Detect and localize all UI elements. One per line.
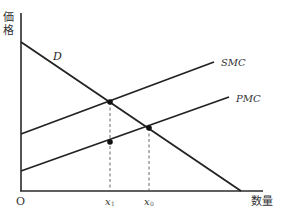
y-axis-label-1: 価	[3, 11, 14, 24]
smc-curve-label: SMC	[221, 57, 246, 68]
demand-curve-label: D	[52, 50, 62, 63]
x0-tick-subscript: 0	[150, 200, 154, 207]
x0-tick-label: x 0	[144, 196, 154, 207]
supply-demand-diagram: 価 格 O 数量 D SMC PMC x 1 x 0	[0, 0, 281, 212]
pmc-curve-label: PMC	[235, 93, 261, 104]
pmc-at-x1-point	[107, 139, 113, 145]
x-axis-label: 数量	[251, 195, 273, 208]
x1-tick-label: x 1	[105, 196, 115, 207]
origin-label: O	[16, 195, 25, 208]
d-smc-intersection-point	[107, 99, 113, 105]
y-axis-label-2: 格	[3, 23, 14, 37]
x1-tick-subscript: 1	[111, 200, 115, 207]
d-pmc-intersection-point	[146, 125, 152, 131]
pmc-curve	[21, 97, 229, 171]
smc-curve	[21, 62, 214, 134]
